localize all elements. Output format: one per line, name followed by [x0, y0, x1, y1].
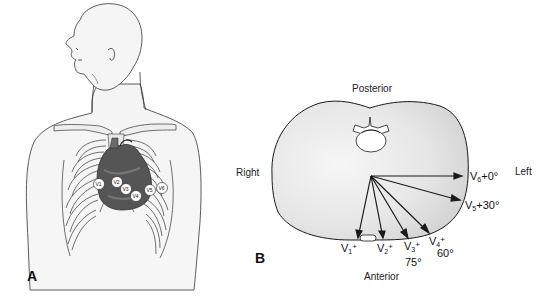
svg-text:V4: V4 — [133, 193, 139, 199]
lead-v5-label: V5+30° — [465, 200, 499, 212]
posterior-label: Posterior — [352, 84, 392, 94]
panel-a-illustration: V1 V2 V3 V4 V5 V6 — [0, 0, 546, 296]
anterior-label: Anterior — [364, 272, 399, 282]
electrode-v4: V4 — [131, 191, 142, 202]
svg-text:V2: V2 — [114, 179, 120, 185]
left-label: Left — [515, 167, 532, 177]
electrode-v1: V1 — [94, 179, 105, 190]
lead-v1-label: V1+ — [341, 243, 357, 255]
panel-a-label: A — [27, 268, 37, 284]
svg-text:V3: V3 — [123, 186, 129, 192]
svg-text:V1: V1 — [96, 181, 102, 187]
electrode-v2: V2 — [112, 177, 123, 188]
right-label: Right — [236, 168, 259, 178]
svg-text:V6: V6 — [159, 185, 165, 191]
panel-b-label: B — [255, 250, 265, 266]
electrode-v6: V6 — [157, 183, 168, 194]
sternum-section — [360, 235, 376, 241]
electrode-v3: V3 — [121, 184, 132, 195]
lead-v4-angle: 60° — [437, 248, 454, 259]
lead-v6-label: V6+0° — [470, 171, 498, 183]
lead-v3-label: V3+ — [404, 241, 420, 253]
lead-v2-label: V2+ — [377, 243, 393, 255]
electrode-v5: V5 — [145, 185, 156, 196]
head — [66, 4, 142, 91]
lead-v3-angle: 75° — [405, 257, 422, 268]
svg-text:V5: V5 — [147, 187, 153, 193]
